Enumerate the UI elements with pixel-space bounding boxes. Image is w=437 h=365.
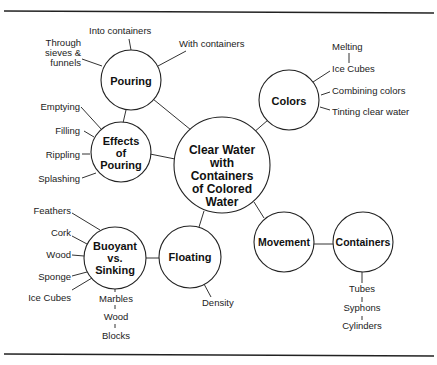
leaf-wood-2: Wood	[104, 311, 129, 322]
leaf-filling: Filling	[55, 125, 80, 136]
leaf-wood: Wood	[46, 249, 71, 260]
leaf-tinting-clear-water: Tinting clear water	[332, 106, 409, 117]
concept-web-diagram: Pouring Effects of Pouring Clear Water w…	[0, 0, 437, 365]
leaf-syphons: Syphons	[344, 302, 381, 313]
leaf-emptying: Emptying	[40, 101, 80, 112]
leaf-cylinders: Cylinders	[342, 320, 382, 331]
leaf-melting: Melting	[332, 41, 363, 52]
leaf-with-containers: With containers	[179, 38, 245, 49]
center-label-2: with	[209, 156, 234, 170]
top-rule	[4, 11, 434, 13]
movement-label: Movement	[258, 236, 310, 248]
center-label-5: Water	[206, 195, 239, 209]
bottom-rule	[4, 354, 434, 356]
leaf-funnels: funnels	[50, 57, 81, 68]
center-label-3: Containers	[191, 169, 254, 183]
leaf-sponge: Sponge	[38, 271, 71, 282]
leaf-into-containers: Into containers	[89, 25, 152, 36]
leaf-splashing: Splashing	[38, 173, 80, 184]
effects-label-1: Effects	[103, 135, 140, 147]
center-label-4: of Colored	[192, 182, 252, 196]
leaf-tubes: Tubes	[349, 283, 375, 294]
effects-label-2: of	[116, 147, 127, 159]
leaf-combining-colors: Combining colors	[332, 85, 406, 96]
leaf-ice-cubes-buoyant: Ice Cubes	[28, 292, 71, 303]
buoyant-label-1: Buoyant	[93, 240, 137, 252]
leaf-rippling: Rippling	[46, 149, 80, 160]
pouring-label: Pouring	[110, 75, 152, 87]
effects-label-3: Pouring	[100, 159, 142, 171]
buoyant-label-3: Sinking	[95, 264, 135, 276]
leaf-feathers: Feathers	[34, 205, 72, 216]
leaf-ice-cubes-colors: Ice Cubes	[332, 63, 375, 74]
leaf-marbles: Marbles	[99, 293, 133, 304]
buoyant-label-2: vs.	[107, 252, 122, 264]
floating-label: Floating	[169, 251, 212, 263]
containers-label: Containers	[336, 236, 391, 248]
center-label-1: Clear Water	[189, 143, 256, 157]
leaf-cork: Cork	[51, 227, 71, 238]
leaf-density: Density	[202, 297, 234, 308]
leaf-blocks: Blocks	[102, 330, 130, 341]
colors-label: Colors	[272, 95, 307, 107]
